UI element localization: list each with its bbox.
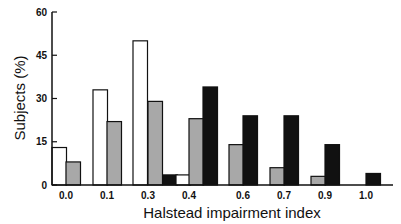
x-tick-label: 1.0 <box>359 190 373 201</box>
bar-group-black-0.3 <box>163 175 178 185</box>
bar-group-black-0.9 <box>325 145 340 185</box>
x-tick-label: 0.3 <box>141 190 155 201</box>
bar-group-gray-0.7 <box>270 168 285 185</box>
bar-group-white-0.0 <box>52 148 67 185</box>
x-tick-label: 0.1 <box>100 190 114 201</box>
bar-group-gray-0.9 <box>311 176 326 185</box>
bar-group-black-0.4 <box>203 87 218 185</box>
x-tick-label: 0.0 <box>59 190 73 201</box>
bar-group-black-1.0 <box>366 173 381 185</box>
bars-group <box>52 41 381 185</box>
bar-group-white-0.1 <box>93 90 108 185</box>
bar-group-gray-0.1 <box>107 122 122 185</box>
x-tick-label: 0.4 <box>182 190 196 201</box>
x-tick-label: 0.6 <box>236 190 250 201</box>
bar-chart: 015304560 0.00.10.30.40.60.70.91.0 Halst… <box>0 0 401 224</box>
bar-group-black-0.7 <box>284 116 299 185</box>
bar-group-gray-0.6 <box>229 145 244 185</box>
y-tick-label: 15 <box>36 136 48 147</box>
y-tick-label: 60 <box>36 7 48 18</box>
y-tick-label: 0 <box>41 180 47 191</box>
bar-group-gray-0.0 <box>66 162 81 185</box>
bar-group-white-0.4 <box>176 175 191 185</box>
y-tick-label: 30 <box>36 93 48 104</box>
y-axis-title: Subjects (%) <box>11 55 28 140</box>
bar-group-gray-0.4 <box>189 119 204 185</box>
bar-group-gray-0.3 <box>148 101 163 185</box>
bar-group-white-0.3 <box>133 41 148 185</box>
x-tick-labels: 0.00.10.30.40.60.70.91.0 <box>59 190 373 201</box>
bar-group-black-0.6 <box>243 116 258 185</box>
x-tick-label: 0.7 <box>277 190 291 201</box>
x-axis-title: Halstead impairment index <box>143 204 321 221</box>
x-tick-label: 0.9 <box>318 190 332 201</box>
y-tick-label: 45 <box>36 50 48 61</box>
